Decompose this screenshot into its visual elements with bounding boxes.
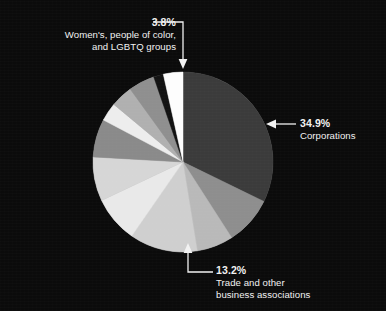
callout-trade-label-line2: business associations: [216, 289, 310, 301]
callout-women-poc-lgbtq: 3.8% Women's, people of color, and LGBTQ…: [6, 16, 176, 53]
callout-trade-associations: 13.2% Trade and other business associati…: [216, 264, 310, 301]
chart-canvas: Corporations — 34.9%Trade and other busi…: [0, 0, 386, 311]
callout-corporations-label-line1: Corporations: [300, 130, 356, 142]
callout-trade-label-line1: Trade and other: [216, 277, 310, 289]
callout-corporations: 34.9% Corporations: [300, 117, 356, 142]
leader-arrowhead-corporations: [266, 120, 276, 129]
callout-women-label-line1: Women's, people of color,: [6, 29, 176, 41]
callout-trade-percent: 13.2%: [216, 264, 310, 277]
callout-women-percent: 3.8%: [6, 16, 176, 29]
callout-corporations-percent: 34.9%: [300, 117, 356, 130]
callout-women-label-line2: and LGBTQ groups: [6, 41, 176, 53]
leader-line-trade: [188, 252, 213, 272]
pie-slice-group: Corporations — 34.9%Trade and other busi…: [93, 72, 273, 252]
leader-arrowhead-women: [179, 59, 188, 69]
